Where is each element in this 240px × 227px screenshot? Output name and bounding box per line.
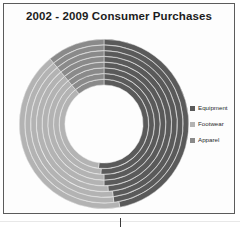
legend-label-apparel: Apparel	[198, 136, 219, 144]
chart-legend: Equipment Footwear Apparel	[190, 104, 238, 152]
chart-screenshot: 2002 - 2009 Consumer Purchases Equipment…	[0, 0, 240, 227]
doughnut-rings-group	[19, 39, 189, 209]
legend-item-footwear[interactable]: Footwear	[190, 120, 238, 128]
legend-item-equipment[interactable]: Equipment	[190, 104, 238, 112]
legend-swatch-apparel	[190, 138, 195, 143]
legend-item-apparel[interactable]: Apparel	[190, 136, 238, 144]
doughnut-chart-svg	[16, 31, 192, 213]
legend-swatch-equipment	[190, 106, 195, 111]
legend-label-footwear: Footwear	[198, 120, 224, 128]
chart-title: 2002 - 2009 Consumer Purchases	[4, 10, 234, 22]
legend-label-equipment: Equipment	[198, 104, 228, 112]
legend-swatch-footwear	[190, 122, 195, 127]
chart-frame: 2002 - 2009 Consumer Purchases Equipment…	[3, 3, 235, 214]
page-tick-mark	[120, 218, 121, 227]
doughnut-plot-area	[16, 31, 192, 213]
